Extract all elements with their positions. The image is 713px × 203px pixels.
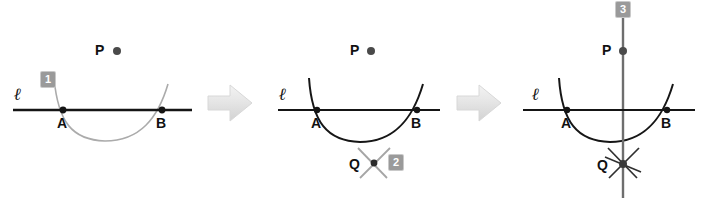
point-label-a: A (57, 116, 67, 130)
point-p (367, 47, 375, 55)
point-label-b: B (661, 116, 671, 130)
point-b (664, 107, 670, 113)
point-label-p: P (350, 43, 359, 57)
point-a (564, 107, 570, 113)
right-arrow-icon (206, 82, 254, 124)
step-badge-1: 1 (41, 72, 55, 87)
step-2-figure (265, 0, 455, 203)
step-badge-3: 3 (616, 2, 630, 17)
point-label-a: A (561, 116, 571, 130)
point-label-p: P (95, 43, 104, 57)
transition-arrow-2 (455, 82, 503, 124)
point-a (60, 107, 67, 114)
line-label-l: ℓ (14, 86, 21, 103)
point-p (619, 47, 627, 55)
construction-step-1: ℓ P A B 1 (0, 0, 205, 203)
point-label-p: P (602, 43, 611, 57)
point-a (314, 107, 320, 113)
point-label-b: B (411, 116, 421, 130)
construction-step-3: ℓ P A B Q 3 (510, 0, 713, 203)
step-1-figure (0, 0, 205, 203)
point-b (414, 107, 420, 113)
construction-step-2: ℓ P A B Q 2 (265, 0, 455, 203)
point-label-a: A (311, 116, 321, 130)
arrow-shape (208, 85, 252, 121)
point-q (619, 160, 627, 168)
right-arrow-icon (455, 82, 503, 124)
point-p (113, 47, 121, 55)
point-label-q: Q (597, 158, 608, 172)
arrow-shape (457, 85, 501, 121)
line-label-l: ℓ (279, 86, 286, 103)
diagram-canvas: ℓ P A B 1 (0, 0, 713, 203)
point-label-b: B (156, 116, 166, 130)
transition-arrow-1 (206, 82, 254, 124)
step-3-figure (510, 0, 713, 203)
line-label-l: ℓ (532, 86, 539, 103)
point-q (371, 160, 378, 167)
point-b (159, 107, 166, 114)
point-label-q: Q (349, 157, 360, 171)
step-badge-2: 2 (389, 155, 403, 170)
